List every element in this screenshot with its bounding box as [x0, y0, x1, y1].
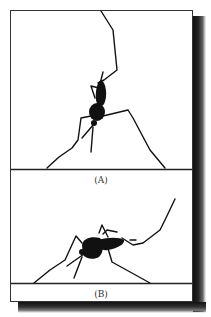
- panel-b-right-leg: [107, 245, 150, 283]
- panel-b-label: (B): [71, 289, 131, 299]
- panel-a-right-leg: [103, 110, 165, 168]
- figure: (A) (B): [0, 0, 211, 317]
- panel-b-body: [79, 237, 124, 258]
- panel-a-left-leg: [47, 116, 91, 168]
- panel-a-insect: [47, 11, 165, 168]
- panel-b-rear-leg: [122, 199, 175, 245]
- panel-a-thorax: [89, 103, 105, 121]
- panel-a-proboscis: [91, 127, 93, 152]
- panel-b-abdomen: [98, 238, 124, 250]
- panel-b-head: [79, 249, 85, 255]
- panel-a-abdomen: [96, 80, 106, 106]
- panel-a-label: (A): [71, 175, 131, 185]
- panel-a-upper-leg: [98, 11, 117, 83]
- panel-a-head: [91, 120, 97, 126]
- insect-drawings: [0, 0, 211, 317]
